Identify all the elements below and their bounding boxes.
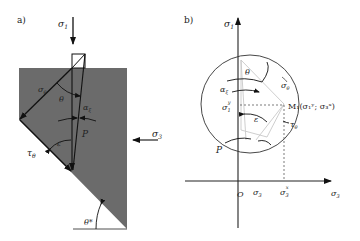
sigma3-tick-label: σ3 <box>253 188 262 198</box>
p-label-b: P <box>215 145 223 155</box>
diagram-canvas: a) σ1 σθ θ αξ ε P τθ σ3 θ* b) σ1 <box>0 0 360 241</box>
sigma1-label: σ1 <box>58 19 68 30</box>
panel-a: a) σ1 σθ θ αξ ε P τθ σ3 θ* <box>17 15 162 229</box>
alpha-xi-arc-b <box>232 90 259 92</box>
x-axis-label: σ3 <box>331 189 340 199</box>
sigma3x-label: σ3x <box>280 184 289 198</box>
tau-theta-label: τθ <box>27 148 36 159</box>
theta-star-label: θ* <box>84 218 93 227</box>
theta-label: θ <box>59 95 64 104</box>
theta-star-arc <box>96 204 101 229</box>
rock-block <box>19 68 127 229</box>
origin-label: O <box>237 190 244 199</box>
bottom-arc-b <box>258 141 271 146</box>
alpha-xi-label-b: αξ <box>220 85 228 96</box>
panel-b-label: b) <box>184 15 193 25</box>
sigma3-label: σ3 <box>152 129 162 140</box>
m1-label: M₁(σ₁ʸ; σ₃ˣ) <box>288 102 335 111</box>
y-axis-label: σ1 <box>224 19 234 30</box>
panel-b: b) σ1 θ σθ αξ σ1y M₁(σ₁ʸ; σ₃ˣ) ε τθ P O … <box>184 15 340 228</box>
epsilon-label-b: ε <box>254 115 258 124</box>
sigma-theta-label-b: σθ <box>281 81 289 91</box>
p-label: P <box>81 129 89 139</box>
panel-a-label: a) <box>17 15 26 25</box>
sigma1y-label: σ1y <box>222 99 231 113</box>
tau-theta-label-b: τθ <box>290 120 297 130</box>
epsilon-label: ε <box>57 140 61 148</box>
theta-label-b: θ <box>245 68 250 77</box>
